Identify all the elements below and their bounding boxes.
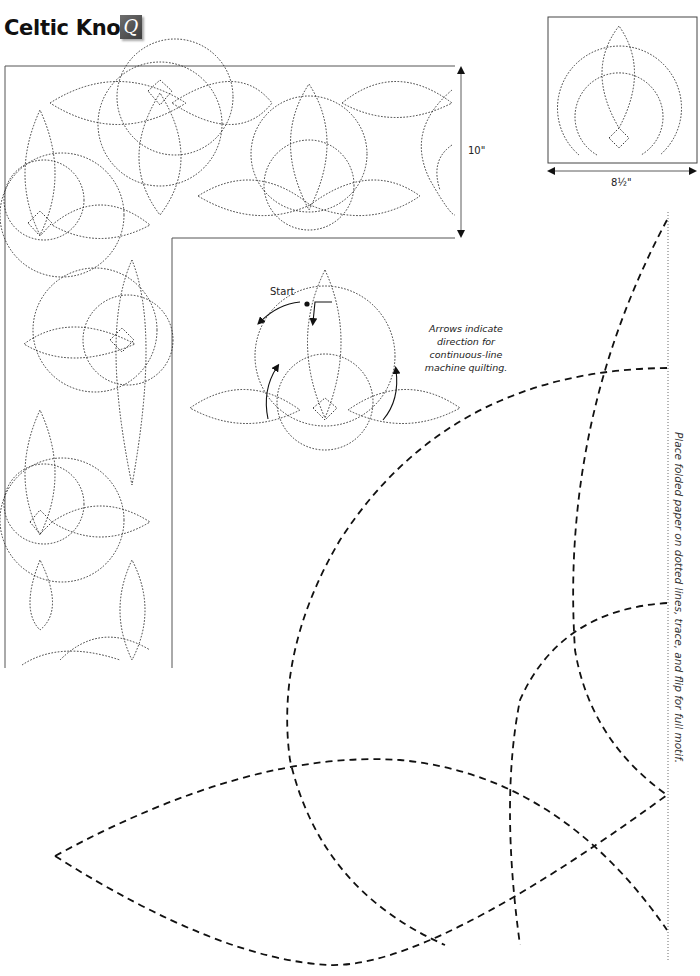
border-motifs: [0, 39, 455, 665]
block-frame: [548, 17, 697, 163]
stitch-note: Arrows indicate direction for continuous…: [408, 322, 524, 374]
stitch-note-line: direction for: [408, 335, 524, 348]
stitch-direction-arrows: [260, 302, 397, 420]
pattern-artwork: [0, 0, 700, 976]
full-size-template: [55, 220, 667, 965]
start-point-marker: [304, 301, 309, 306]
border-frame: [5, 66, 455, 668]
stitch-note-line: Arrows indicate: [408, 322, 524, 335]
height-label: 10": [468, 145, 485, 156]
width-label: 8½": [611, 177, 632, 188]
stitch-note-line: continuous-line: [408, 348, 524, 361]
block-motif: [558, 26, 682, 155]
template-instruction: Place folded paper on dotted lines, trac…: [673, 432, 685, 802]
stitch-note-line: machine quilting.: [408, 361, 524, 374]
start-label: Start: [270, 286, 294, 297]
